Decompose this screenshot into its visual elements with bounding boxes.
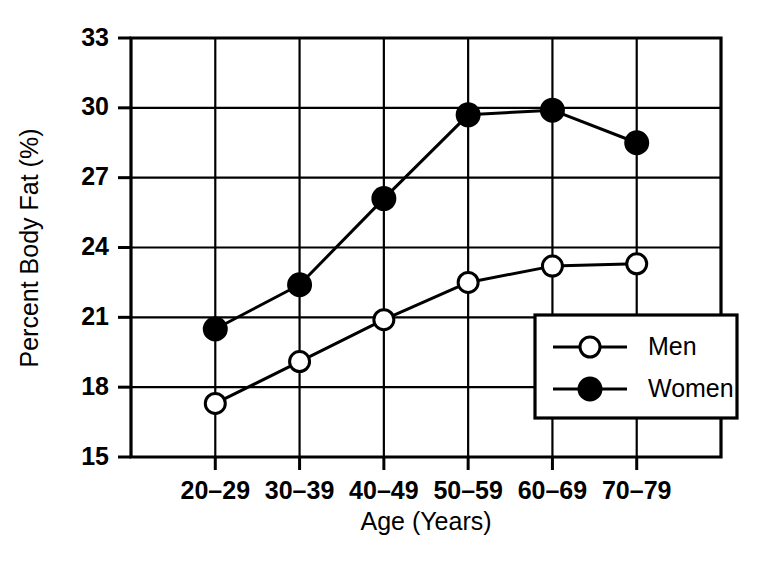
y-tick-label: 30 [81, 92, 109, 120]
y-tick-label: 33 [81, 23, 109, 51]
percent-body-fat-by-age-line-chart: 15182124273033 20–2930–3940–4950–5960–69… [0, 0, 782, 572]
data-point-marker [627, 254, 647, 274]
data-point-marker [373, 188, 395, 210]
data-point-marker [289, 274, 311, 296]
x-tick-label: 70–79 [602, 476, 672, 504]
y-tick-label: 18 [81, 372, 109, 400]
data-point-marker [374, 310, 394, 330]
data-point-marker [204, 318, 226, 340]
y-tick-label: 21 [81, 302, 109, 330]
data-point-marker [542, 256, 562, 276]
data-point-marker [457, 104, 479, 126]
legend-box [535, 315, 737, 418]
legend-label: Men [648, 332, 697, 360]
data-point-marker [290, 352, 310, 372]
x-tick-label: 50–59 [433, 476, 503, 504]
chart-figure: 15182124273033 20–2930–3940–4950–5960–69… [0, 0, 782, 572]
x-tick-label: 20–29 [181, 476, 251, 504]
y-tick-label: 27 [81, 162, 109, 190]
legend-marker [579, 378, 601, 400]
y-tick-label: 24 [81, 232, 109, 260]
x-axis-title: Age (Years) [360, 507, 491, 535]
y-tick-label: 15 [81, 442, 109, 470]
x-tick-label: 60–69 [518, 476, 588, 504]
data-point-marker [541, 99, 563, 121]
data-point-marker [205, 393, 225, 413]
x-tick-label: 30–39 [265, 476, 335, 504]
data-point-marker [458, 272, 478, 292]
legend-marker [580, 337, 600, 357]
data-point-marker [626, 132, 648, 154]
y-axis-title: Percent Body Fat (%) [15, 129, 43, 368]
chart-legend: MenWomen [535, 315, 737, 418]
legend-label: Women [648, 374, 734, 402]
x-tick-label: 40–49 [349, 476, 419, 504]
